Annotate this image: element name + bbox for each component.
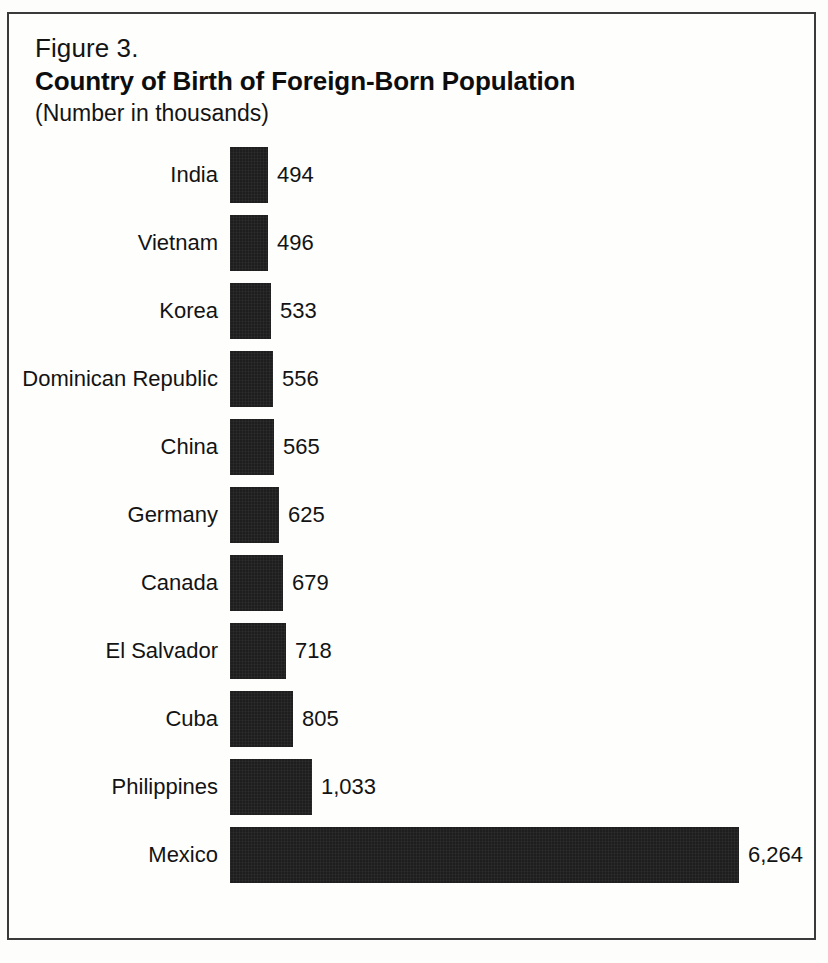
bar-row: India494 [9, 147, 814, 203]
category-label: Philippines [9, 759, 218, 815]
category-label: Korea [9, 283, 218, 339]
page-background: Figure 3. Country of Birth of Foreign-Bo… [0, 0, 828, 963]
bar-value-label: 625 [288, 487, 325, 543]
bar-value-label: 565 [283, 419, 320, 475]
bar-value-label: 679 [292, 555, 329, 611]
bar [230, 351, 273, 407]
category-label: Vietnam [9, 215, 218, 271]
bar-value-label: 805 [302, 691, 339, 747]
bar [230, 487, 279, 543]
bar [230, 147, 268, 203]
figure-frame: Figure 3. Country of Birth of Foreign-Bo… [7, 12, 816, 940]
bar-value-label: 718 [295, 623, 332, 679]
category-label: Mexico [9, 827, 218, 883]
category-label: El Salvador [9, 623, 218, 679]
bar-value-label: 1,033 [321, 759, 376, 815]
category-label: Cuba [9, 691, 218, 747]
bar [230, 555, 283, 611]
bar-value-label: 494 [277, 147, 314, 203]
bar-row: China565 [9, 419, 814, 475]
bar-value-label: 6,264 [748, 827, 803, 883]
bar-row: Vietnam496 [9, 215, 814, 271]
category-label: Canada [9, 555, 218, 611]
bar-chart: India494Vietnam496Korea533Dominican Repu… [9, 147, 814, 937]
bar-row: Canada679 [9, 555, 814, 611]
figure-subtitle: (Number in thousands) [35, 98, 775, 129]
bar-value-label: 533 [280, 283, 317, 339]
bar-row: Cuba805 [9, 691, 814, 747]
bar-row: Mexico6,264 [9, 827, 814, 883]
category-label: Germany [9, 487, 218, 543]
figure-title: Country of Birth of Foreign-Born Populat… [35, 64, 775, 98]
bar-row: Dominican Republic556 [9, 351, 814, 407]
bar [230, 691, 293, 747]
bar-value-label: 556 [282, 351, 319, 407]
figure-header: Figure 3. Country of Birth of Foreign-Bo… [35, 32, 775, 129]
bar-row: Germany625 [9, 487, 814, 543]
bar [230, 419, 274, 475]
bar-row: El Salvador718 [9, 623, 814, 679]
bar [230, 827, 739, 883]
bar-value-label: 496 [277, 215, 314, 271]
category-label: India [9, 147, 218, 203]
bar-row: Philippines1,033 [9, 759, 814, 815]
bar [230, 623, 286, 679]
bar [230, 759, 312, 815]
bar [230, 215, 268, 271]
category-label: China [9, 419, 218, 475]
bar-row: Korea533 [9, 283, 814, 339]
figure-number: Figure 3. [35, 32, 775, 64]
bar [230, 283, 271, 339]
category-label: Dominican Republic [9, 351, 218, 407]
